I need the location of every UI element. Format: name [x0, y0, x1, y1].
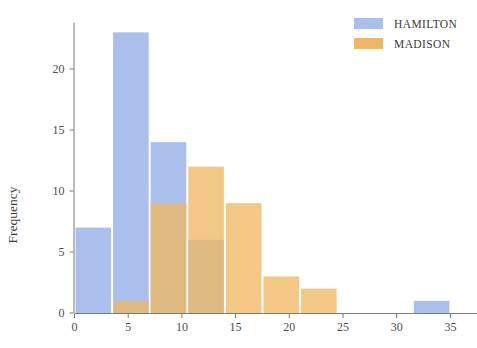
x-tick-label: 15 [230, 320, 242, 334]
bar [151, 203, 187, 313]
y-tick-label: 20 [53, 62, 65, 76]
y-tick-label: 0 [59, 306, 65, 320]
bar [226, 203, 262, 313]
x-tick-label: 10 [176, 320, 188, 334]
histogram-chart: 05101520253035 05101520 HAMILTONMADISON … [0, 0, 477, 348]
legend-label: MADISON [394, 38, 451, 50]
x-tick-label: 30 [391, 320, 403, 334]
y-axis-ticks: 05101520 [53, 62, 74, 320]
chart-legend: HAMILTONMADISON [354, 18, 458, 50]
x-axis-ticks: 05101520253035 [72, 314, 457, 334]
legend-item: MADISON [354, 38, 451, 50]
x-tick-label: 5 [125, 320, 131, 334]
x-tick-label: 35 [444, 320, 456, 334]
bar-series-hamilton [76, 32, 450, 313]
bar [113, 301, 149, 313]
y-axis-title: Frequency [5, 186, 20, 243]
x-tick-label: 25 [337, 320, 349, 334]
legend-swatch [354, 38, 383, 49]
x-tick-label: 20 [283, 320, 295, 334]
bar [113, 32, 149, 313]
bar [414, 301, 450, 313]
bar [188, 167, 224, 313]
y-tick-label: 15 [53, 123, 65, 137]
x-tick-label: 0 [72, 320, 78, 334]
bar [76, 228, 112, 313]
bar [301, 289, 337, 313]
bar [263, 276, 299, 313]
chart-canvas: 05101520253035 05101520 HAMILTONMADISON … [0, 0, 477, 348]
y-tick-label: 10 [53, 184, 65, 198]
bars-layer [76, 32, 450, 313]
legend-swatch [354, 18, 383, 29]
y-tick-label: 5 [59, 245, 65, 259]
legend-item: HAMILTON [354, 18, 458, 30]
legend-label: HAMILTON [394, 18, 458, 30]
